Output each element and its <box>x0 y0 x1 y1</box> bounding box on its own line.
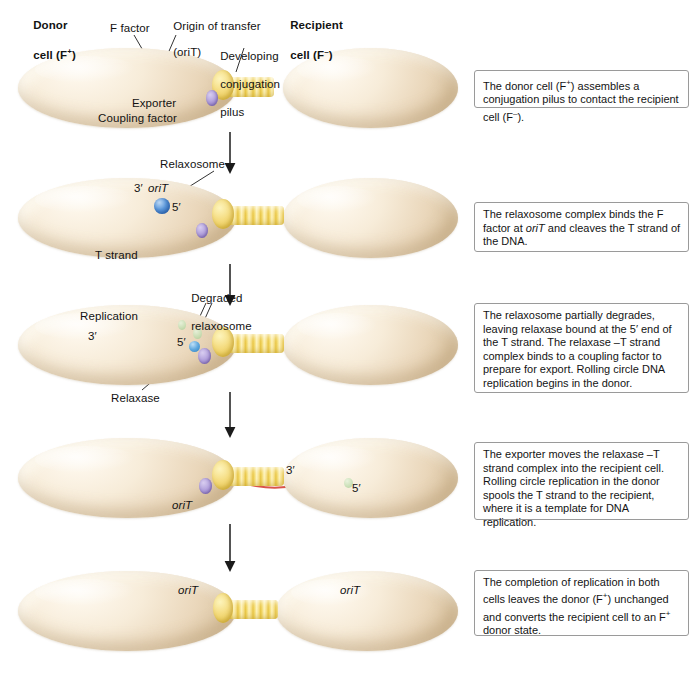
donor-cell-row5 <box>18 571 236 651</box>
coupling-factor-row3 <box>198 348 211 364</box>
replication-label: Replication <box>80 310 138 323</box>
relaxosome-label: Relaxosome <box>160 158 225 171</box>
caption-step-3: The relaxosome partially degrades, leavi… <box>474 303 689 393</box>
f-factor-label: F factor <box>110 22 150 35</box>
caption-step-2: The relaxosome complex binds the F facto… <box>474 202 689 252</box>
caption-step-5: The completion of replication in both ce… <box>474 570 689 636</box>
pilus-base-knob-row2 <box>212 199 234 229</box>
coupling-factor-label: Coupling factor <box>98 112 177 125</box>
recipient-cell-row4 <box>283 438 458 518</box>
relaxase-label: Relaxase <box>111 392 160 405</box>
orit-label-row5-donor: oriT <box>178 584 198 597</box>
caption-step-4: The exporter moves the relaxase –T stran… <box>474 442 689 520</box>
donor-cell-header: Donor cell (F+) <box>20 6 76 75</box>
five-prime-label-row4: 5′ <box>352 482 361 495</box>
orit-label-row2: oriT <box>148 182 168 195</box>
orit-label-row5-recipient: oriT <box>340 584 360 597</box>
three-prime-label-row4: 3′ <box>286 464 295 477</box>
three-prime-label-row3: 3′ <box>88 330 97 343</box>
t-strand-label: T strand <box>95 249 138 262</box>
coupling-factor-row2 <box>196 223 208 238</box>
conjugation-diagram: Donor cell (F+) Recipient cell (F–) F fa… <box>0 0 697 673</box>
five-prime-label-row3: 5′ <box>177 336 186 349</box>
degraded-relaxosome-label: Degraded relaxosome <box>178 277 252 347</box>
coupling-factor-row4 <box>199 478 212 494</box>
three-prime-label-row2: 3′ <box>134 182 143 195</box>
relaxosome-complex-row2 <box>154 198 170 214</box>
recipient-cell-header: Recipient cell (F–) <box>277 6 343 75</box>
exporter-label: Exporter <box>132 97 176 110</box>
donor-cell-row2 <box>18 178 236 258</box>
pilus-base-knob-row5 <box>213 593 233 623</box>
recipient-cell-row5 <box>276 571 458 651</box>
orit-label-row4: oriT <box>172 499 192 512</box>
recipient-cell-row3 <box>283 305 458 385</box>
pilus-base-knob-row4 <box>212 460 234 490</box>
five-prime-label-row2: 5′ <box>172 201 181 214</box>
recipient-cell-row2 <box>283 178 458 258</box>
developing-pilus-label: Developing conjugation pilus <box>207 35 280 133</box>
caption-step-1: The donor cell (F+) assembles a conjugat… <box>474 70 689 108</box>
